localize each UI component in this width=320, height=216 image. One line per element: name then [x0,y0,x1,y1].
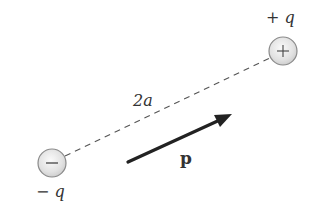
separation-label: 2a [133,93,153,109]
negative-charge [38,149,66,177]
negative-charge-label: − q [36,184,65,200]
dipole-moment-label: p [180,150,192,167]
positive-charge-label: + q [266,10,295,26]
positive-charge [269,37,297,65]
separation-line [65,58,270,156]
